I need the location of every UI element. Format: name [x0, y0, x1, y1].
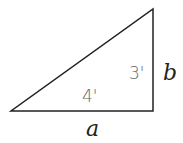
triangle-diagram: 3' b 4' a — [0, 0, 183, 143]
horizontal-side-variable-label: a — [86, 116, 99, 141]
vertical-side-value-label: 3' — [129, 63, 145, 83]
vertical-side-variable-label: b — [163, 60, 177, 85]
horizontal-side-value-label: 4' — [82, 86, 98, 106]
